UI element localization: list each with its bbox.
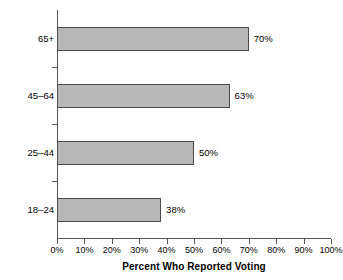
x-axis-title: Percent Who Reported Voting <box>57 262 331 272</box>
y-axis-tick-labels: 18–2425–4445–6465+ <box>8 0 54 280</box>
y-axis-tick <box>52 181 57 182</box>
x-axis-tick <box>194 239 195 244</box>
x-tick-label: 70% <box>240 246 258 255</box>
x-tick-label: 100% <box>319 246 342 255</box>
bar-chart: Age 18–2425–4445–6465+ 38%50%63%70% 0%10… <box>0 0 343 280</box>
x-axis-tick <box>139 239 140 244</box>
bar-65+ <box>57 27 249 51</box>
bar-value-label: 50% <box>199 148 218 158</box>
bar-value-label: 70% <box>254 34 273 44</box>
x-axis-tick <box>249 239 250 244</box>
x-axis-tick <box>276 239 277 244</box>
x-tick-label: 10% <box>75 246 93 255</box>
y-tick-label: 25–44 <box>10 148 54 158</box>
bar-18-24 <box>57 198 161 222</box>
x-axis-tick <box>167 239 168 244</box>
x-tick-label: 20% <box>103 246 121 255</box>
x-axis-tick <box>57 239 58 244</box>
bar-45-64 <box>57 84 230 108</box>
y-tick-label: 18–24 <box>10 205 54 215</box>
x-tick-label: 50% <box>185 246 203 255</box>
x-tick-label: 0% <box>50 246 63 255</box>
x-tick-label: 90% <box>295 246 313 255</box>
y-tick-label: 45–64 <box>10 91 54 101</box>
x-tick-label: 60% <box>212 246 230 255</box>
y-axis-tick <box>52 124 57 125</box>
plot-area: 38%50%63%70% 0%10%20%30%40%50%60%70%80%9… <box>57 10 331 238</box>
y-axis-tick <box>52 67 57 68</box>
x-tick-label: 30% <box>130 246 148 255</box>
bar-value-label: 63% <box>235 91 254 101</box>
x-axis-tick <box>221 239 222 244</box>
x-tick-label: 40% <box>158 246 176 255</box>
y-tick-label: 65+ <box>10 34 54 44</box>
x-axis-tick <box>84 239 85 244</box>
x-axis-tick <box>331 239 332 244</box>
x-tick-label: 80% <box>267 246 285 255</box>
x-axis-tick <box>304 239 305 244</box>
bar-value-label: 38% <box>166 205 185 215</box>
x-axis-tick <box>112 239 113 244</box>
bar-25-44 <box>57 141 194 165</box>
